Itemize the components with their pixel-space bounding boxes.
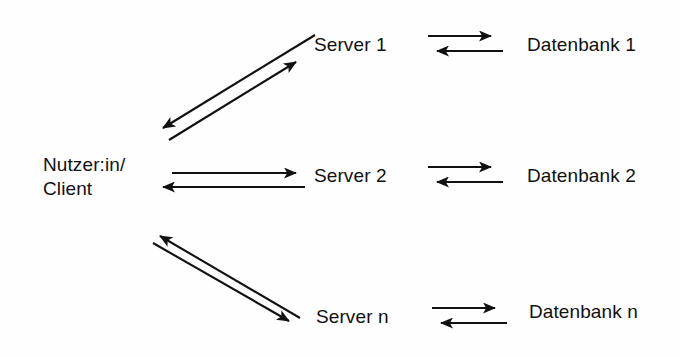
node-server-1: Server 1 (314, 33, 387, 57)
node-datenbank-1: Datenbank 1 (527, 33, 636, 57)
diagram-canvas: Nutzer:in/Client Server 1 Server 2 Serve… (0, 0, 680, 357)
node-client-line-1: Nutzer:in/ (43, 154, 125, 175)
arrow-server-n-datenbank-n (432, 308, 507, 323)
node-datenbank-n: Datenbank n (529, 300, 638, 324)
node-datenbank-2: Datenbank 2 (527, 164, 636, 188)
node-server-2: Server 2 (314, 164, 387, 188)
arrow-client-server-1 (163, 35, 315, 140)
arrow-client-server-2 (163, 173, 305, 187)
node-client-line-2: Client (43, 178, 92, 199)
arrow-client-server-n (153, 236, 300, 321)
node-client: Nutzer:in/Client (43, 153, 125, 201)
node-server-n: Server n (316, 305, 389, 329)
arrow-server-2-datenbank-2 (428, 167, 503, 182)
arrow-server-1-datenbank-1 (428, 36, 503, 51)
